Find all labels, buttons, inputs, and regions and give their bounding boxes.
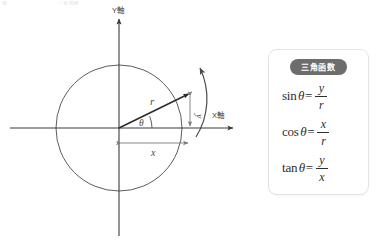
unit-circle-diagram: Y軸 X軸 r θ x y <box>0 0 265 240</box>
sine-fraction: y r <box>315 82 327 111</box>
angle-arc <box>150 116 152 128</box>
radius-label: r <box>150 95 155 107</box>
cosine-fraction: x r <box>317 118 329 147</box>
sine-numerator: y <box>319 82 324 95</box>
cosine-theta-symbol: θ <box>299 124 307 140</box>
trigonometric-functions-card: 三角函数 sin θ = y r cos θ = x r <box>268 49 369 195</box>
tangent-fraction-bar <box>316 168 328 169</box>
cosine-denominator: r <box>321 134 326 147</box>
tangent-denominator: x <box>319 170 324 183</box>
sine-formula-row: sin θ = y r <box>282 81 327 111</box>
formula-list: sin θ = y r cos θ = x r <box>269 81 368 183</box>
sine-theta-symbol: θ <box>297 88 305 104</box>
cosine-formula-row: cos θ = x r <box>282 117 329 147</box>
tangent-function-name: tan <box>282 160 297 176</box>
rotation-direction-arrow <box>196 68 207 137</box>
x-component-label: x <box>150 147 156 158</box>
tangent-equals-sign: = <box>305 160 316 176</box>
sine-function-name: sin <box>282 88 297 104</box>
x-axis-label: X軸 <box>212 110 224 120</box>
cosine-fraction-bar <box>317 132 329 133</box>
y-axis-label: Y軸 <box>112 5 124 15</box>
tangent-theta-symbol: θ <box>297 160 305 176</box>
trigonometry-illustration-page: 図 三角関数 <box>0 0 378 240</box>
cosine-function-name: cos <box>282 124 299 140</box>
y-component-label: y <box>194 113 205 119</box>
cosine-equals-sign: = <box>307 124 318 140</box>
sine-equals-sign: = <box>304 88 315 104</box>
tangent-formula-row: tan θ = y x <box>282 153 328 183</box>
tangent-fraction: y x <box>316 154 328 183</box>
sine-fraction-bar <box>315 96 327 97</box>
angle-label: θ <box>139 118 144 128</box>
card-title-badge: 三角函数 <box>290 59 347 75</box>
cosine-numerator: x <box>321 118 326 131</box>
tangent-numerator: y <box>319 154 324 167</box>
sine-denominator: r <box>319 98 324 111</box>
